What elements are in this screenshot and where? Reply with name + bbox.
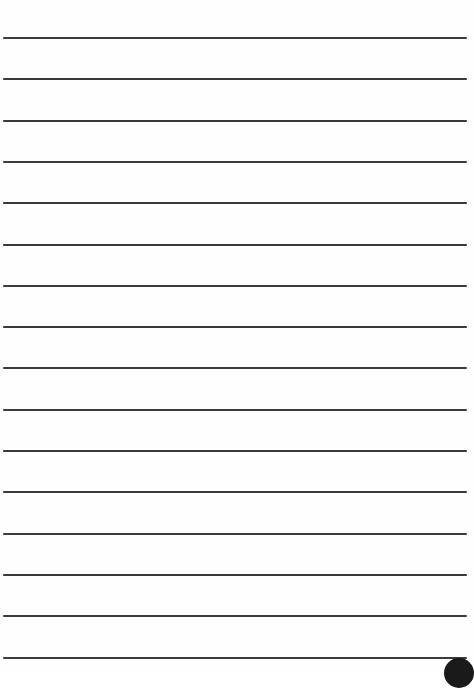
ruled-line — [3, 37, 467, 39]
ruled-line — [3, 657, 467, 659]
ruled-line — [3, 491, 467, 493]
ruled-line — [3, 244, 467, 246]
ruled-line — [3, 574, 467, 576]
ruled-line — [3, 326, 467, 328]
ruled-line — [3, 533, 467, 535]
ruled-line — [3, 450, 467, 452]
ruled-line — [3, 409, 467, 411]
ruled-line — [3, 161, 467, 163]
ruled-line — [3, 78, 467, 80]
ruled-line — [3, 120, 467, 122]
ruled-line — [3, 615, 467, 617]
ruled-line — [3, 202, 467, 204]
ruled-line — [3, 367, 467, 369]
ruled-line — [3, 285, 467, 287]
corner-mark-icon — [444, 658, 474, 688]
